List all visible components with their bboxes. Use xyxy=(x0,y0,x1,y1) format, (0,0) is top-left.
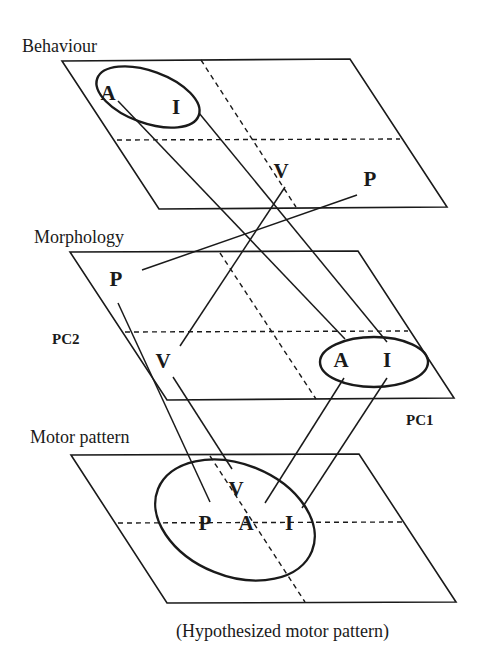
point-label-V: V xyxy=(228,477,243,501)
axis-label-pc1: PC1 xyxy=(406,412,434,428)
connector-behaviour-A-to-morphology-A xyxy=(118,101,345,339)
pc1-axis-dashed xyxy=(125,331,408,332)
point-label-I: I xyxy=(383,348,391,372)
caption: (Hypothesized motor pattern) xyxy=(176,621,389,642)
point-label-I: I xyxy=(172,95,180,119)
cluster-ellipse xyxy=(137,437,333,603)
point-label-V: V xyxy=(273,159,288,183)
point-label-P: P xyxy=(110,267,123,291)
point-label-I: I xyxy=(285,511,293,535)
plane-title: Morphology xyxy=(34,227,124,247)
pc1-axis-dashed xyxy=(118,522,402,523)
plane-title: Motor pattern xyxy=(30,427,129,447)
point-label-P: P xyxy=(199,511,212,535)
point-label-A: A xyxy=(100,81,116,105)
point-label-V: V xyxy=(155,349,170,373)
connector-behaviour-P-to-morphology-P xyxy=(142,195,357,270)
plane-behaviour xyxy=(62,54,447,209)
pc2-axis-dashed xyxy=(220,253,316,399)
pca-layered-diagram: BehaviourAIVPMorphologyPVAIPC2PC1Motor p… xyxy=(0,0,484,663)
connector-behaviour-I-to-morphology-I xyxy=(199,113,387,342)
connector-behaviour-V-to-morphology-V xyxy=(180,187,285,346)
labels: BehaviourAIVPMorphologyPVAIPC2PC1Motor p… xyxy=(22,36,434,642)
point-label-A: A xyxy=(333,348,349,372)
connection-lines xyxy=(118,101,387,508)
plane-outline xyxy=(62,59,447,209)
plane-title: Behaviour xyxy=(22,36,97,56)
connector-morphology-A-to-motor-pattern-A xyxy=(265,378,344,503)
plane-motor-pattern xyxy=(71,437,456,603)
point-label-P: P xyxy=(364,167,377,191)
point-label-A: A xyxy=(238,511,254,535)
axis-label-pc2: PC2 xyxy=(52,331,80,347)
connector-morphology-P-to-motor-pattern-P xyxy=(118,303,210,502)
pc1-axis-dashed xyxy=(117,139,400,140)
planes xyxy=(62,54,456,603)
